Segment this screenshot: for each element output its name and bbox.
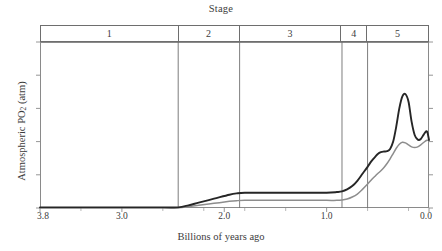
series-line-lower-bound [40,140,429,208]
series-line-upper-bound [40,94,429,208]
chart-overlay [0,0,442,251]
chart-figure: Stage Atmospheric PO2 (atm) Billions of … [0,0,442,251]
